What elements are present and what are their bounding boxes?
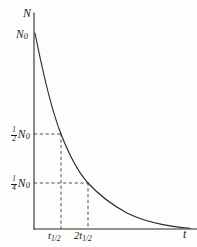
y-tick-label-half-n0: 1 2 N0 — [11, 127, 30, 143]
y-tick-quarter-symbol: N — [18, 178, 26, 190]
y-tick-label-n0: N0 — [16, 29, 28, 41]
fraction-denominator: 2 — [12, 136, 17, 143]
fraction-numerator: 1 — [12, 176, 17, 183]
y-tick-label-quarter-n0: 1 4 N0 — [11, 176, 30, 192]
x-tick-t-half-subscript: 1/2 — [51, 235, 61, 243]
y-tick-n0-subscript: 0 — [24, 33, 28, 41]
fraction-numerator: 1 — [12, 127, 17, 134]
x-tick-two-t-half-subscript: 1/2 — [82, 235, 92, 243]
decay-curve-figure: N t N0 1 2 N0 1 4 N0 t1/2 2t1/2 — [0, 0, 197, 247]
fraction-denominator: 4 — [12, 185, 17, 192]
y-tick-quarter-subscript: 0 — [26, 182, 30, 190]
y-tick-n0-symbol: N — [16, 29, 24, 41]
decay-curve — [35, 33, 190, 228]
y-tick-half-subscript: 0 — [26, 133, 30, 141]
plot-area — [0, 0, 197, 247]
fraction-one-quarter: 1 4 — [11, 176, 17, 192]
x-tick-label-t-half: t1/2 — [48, 231, 61, 242]
fraction-one-half: 1 2 — [11, 127, 17, 143]
y-tick-half-symbol: N — [18, 129, 26, 141]
x-tick-label-two-t-half: 2t1/2 — [74, 231, 92, 242]
y-axis-label: N — [23, 7, 31, 19]
x-axis-label: t — [183, 228, 186, 240]
